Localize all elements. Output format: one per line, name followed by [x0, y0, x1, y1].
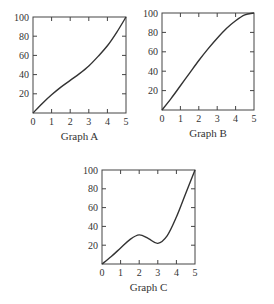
plot-a: 01234520406080100Graph A	[14, 12, 129, 143]
y-tick-label: 60	[19, 50, 29, 61]
x-tick-label: 2	[68, 116, 73, 127]
x-tick-label: 5	[193, 267, 198, 278]
y-tick-label: 80	[148, 27, 158, 38]
x-tick-label: 1	[49, 116, 54, 127]
data-line	[33, 17, 126, 113]
y-tick-label: 100	[143, 8, 158, 19]
plot-c: 01234520406080100Graph C	[83, 165, 198, 294]
data-line	[162, 13, 254, 110]
y-tick-label: 20	[88, 240, 98, 251]
graph-caption: Graph C	[130, 281, 168, 293]
y-tick-label: 40	[148, 66, 158, 77]
y-tick-label: 40	[19, 69, 29, 80]
x-tick-label: 0	[100, 267, 105, 278]
x-tick-label: 0	[160, 113, 165, 124]
y-tick-label: 20	[148, 85, 158, 96]
plot-b: 01234520406080100Graph B	[143, 8, 257, 140]
plot-frame	[102, 170, 195, 264]
y-tick-label: 80	[19, 31, 29, 42]
x-tick-label: 1	[178, 113, 183, 124]
x-tick-label: 4	[174, 267, 179, 278]
plot-frame	[162, 13, 254, 110]
y-tick-label: 100	[14, 12, 29, 23]
y-tick-label: 40	[88, 221, 98, 232]
y-tick-label: 80	[88, 183, 98, 194]
graph-caption: Graph A	[61, 130, 99, 142]
x-tick-label: 0	[31, 116, 36, 127]
graph-caption: Graph B	[189, 127, 227, 139]
y-tick-label: 60	[88, 202, 98, 213]
data-line	[102, 170, 195, 264]
y-tick-label: 60	[148, 46, 158, 57]
x-tick-label: 1	[118, 267, 123, 278]
x-tick-label: 2	[137, 267, 142, 278]
x-tick-label: 3	[215, 113, 220, 124]
y-tick-label: 100	[83, 165, 98, 176]
x-tick-label: 2	[196, 113, 201, 124]
x-tick-label: 3	[155, 267, 160, 278]
x-tick-label: 4	[233, 113, 238, 124]
x-tick-label: 5	[252, 113, 257, 124]
chart-figure: 01234520406080100Graph A0123452040608010…	[0, 0, 274, 304]
y-tick-label: 20	[19, 88, 29, 99]
x-tick-label: 3	[86, 116, 91, 127]
x-tick-label: 5	[124, 116, 129, 127]
x-tick-label: 4	[105, 116, 110, 127]
